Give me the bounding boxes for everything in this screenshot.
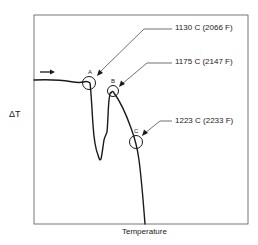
point-c-letter: C [134,128,138,134]
leader-c [142,121,172,136]
leader-a [97,29,172,76]
leader-b [119,63,172,87]
annotation-c-label: 1223 C (2233 F) [175,117,233,125]
annotation-a-label: 1130 C (2066 F) [175,24,233,32]
x-axis-label: Temperature [122,228,167,236]
point-b-letter: B [111,78,115,84]
annotation-b-label: 1175 C (2147 F) [175,58,233,66]
direction-arrow-icon [40,70,55,75]
y-axis-label: ΔT [9,110,21,119]
point-a-letter: A [88,69,92,75]
dta-curve [34,80,145,224]
